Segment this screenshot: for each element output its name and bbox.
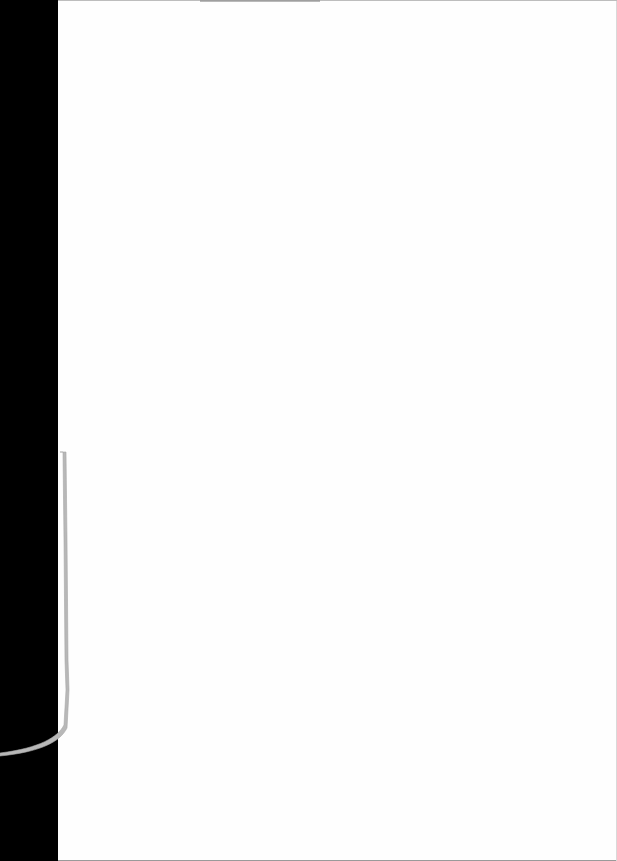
blank-page bbox=[58, 0, 617, 861]
page-top-edge-shadow bbox=[200, 0, 320, 2]
scan-background bbox=[0, 0, 617, 861]
